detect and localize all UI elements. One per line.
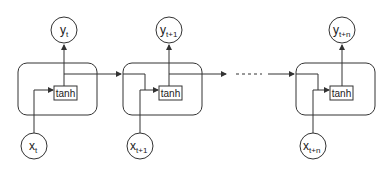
rnn-diagram: tanh yt xt tanh yt+1 xt+1 tanh yt+n xt <box>0 0 386 173</box>
rnn-cell-t1: tanh yt+1 xt+1 <box>123 17 226 159</box>
rnn-cell-tn: tanh yt+n xt+n <box>296 17 375 159</box>
tanh-label: tanh <box>161 88 180 99</box>
tanh-label: tanh <box>56 88 75 99</box>
diagram-svg: tanh yt xt tanh yt+1 xt+1 tanh yt+n xt <box>0 0 386 173</box>
rnn-cell-t: tanh yt xt <box>18 17 121 159</box>
tanh-label: tanh <box>332 88 351 99</box>
